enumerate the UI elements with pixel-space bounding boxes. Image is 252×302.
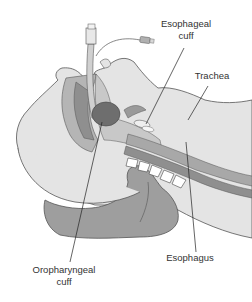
nose-profile [100, 59, 111, 68]
label-esophagus: Esophagus [160, 252, 220, 264]
tube-connector [86, 28, 96, 44]
label-esophageal-cuff-line1: Esophageal [156, 18, 216, 30]
pilot-line [96, 39, 140, 56]
label-oropharyngeal-cuff-line1: Oropharyngeal [28, 264, 100, 276]
label-oropharyngeal-cuff: Oropharyngeal cuff [28, 264, 100, 288]
label-esophageal-cuff-line2: cuff [156, 30, 216, 42]
label-oropharyngeal-cuff-line2: cuff [28, 276, 100, 288]
oropharyngeal-cuff [92, 102, 120, 126]
pilot-valve [140, 36, 151, 43]
label-esophageal-cuff: Esophageal cuff [156, 18, 216, 42]
label-esophagus-text: Esophagus [160, 252, 220, 264]
label-trachea: Trachea [190, 70, 234, 82]
label-trachea-text: Trachea [190, 70, 234, 82]
